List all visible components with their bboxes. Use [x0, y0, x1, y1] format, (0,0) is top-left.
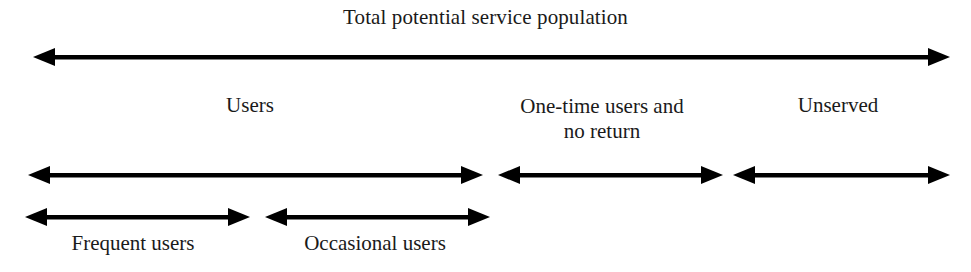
one-time-users-and-no-return-arrow	[498, 163, 723, 187]
segment-label-line-1: One-time users and	[492, 94, 712, 119]
subsegment-arrow-row	[0, 205, 971, 229]
total-potential-service-population-arrow	[33, 45, 950, 69]
service-population-diagram: Total potential service population Users…	[0, 0, 971, 272]
frequent-users-arrow	[25, 205, 250, 229]
diagram-title: Total potential service population	[0, 6, 971, 30]
segment-label-line-2: no return	[492, 119, 712, 144]
segment-label-unserved: Unserved	[738, 94, 938, 118]
segment-label-users: Users	[150, 94, 350, 118]
subsegment-label-frequent-users: Frequent users	[33, 232, 233, 256]
subsegment-label-occasional-users: Occasional users	[275, 232, 475, 256]
users-arrow	[28, 163, 483, 187]
segment-arrow-row	[0, 163, 971, 187]
total-arrow-row	[0, 45, 971, 69]
unserved-arrow	[733, 163, 950, 187]
segment-label-one-time-users-and-no-return: One-time users and no return	[492, 94, 712, 144]
occasional-users-arrow	[265, 205, 490, 229]
